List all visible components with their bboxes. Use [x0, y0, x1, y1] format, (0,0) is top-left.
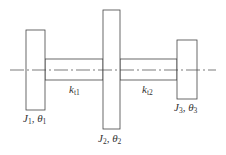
shaft-1	[45, 59, 103, 80]
disc-1-inertia-label: J1, θ1	[23, 112, 47, 126]
stiffness-subscript: t1	[74, 88, 80, 97]
angle-subscript: 1	[43, 117, 47, 126]
stiffness-subscript: t2	[147, 88, 153, 97]
shaft-1-stiffness-label: kt1	[69, 83, 80, 97]
angle-subscript: 3	[194, 106, 198, 115]
disc-3	[177, 40, 197, 99]
shaft-2-stiffness-label: kt2	[142, 83, 153, 97]
angle-subscript: 2	[118, 137, 122, 146]
disc-3-inertia-label: J3, θ3	[174, 101, 198, 115]
torsional-system-diagram: kt1 kt2 J1, θ1 J2, θ2 J3, θ3	[0, 0, 226, 155]
shaft-2	[120, 59, 177, 80]
disc-2	[103, 10, 120, 129]
disc-2-inertia-label: J2, θ2	[98, 132, 122, 146]
